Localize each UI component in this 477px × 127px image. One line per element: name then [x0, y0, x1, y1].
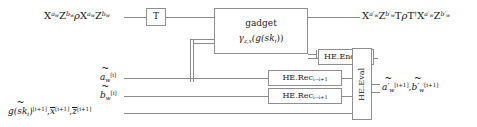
input-g-sk-base: g(sk [8, 106, 27, 116]
bar-accent-x [50, 107, 55, 108]
wire-b-into-he-rec-2 [124, 96, 268, 97]
output-state-label: Xa′wZb′wTρT†Xa′wZb′w [362, 11, 450, 21]
he-rec-2-label: HE.Reci→i+1 [282, 91, 327, 101]
output-b-sup: [i+1] [424, 82, 438, 88]
output-a-sub: w [389, 87, 394, 93]
input-z-sup: [i+1] [77, 106, 91, 112]
input-state-label: XawZbwρXawZbw [44, 11, 110, 21]
output-t1: T [395, 10, 402, 21]
wire-gadget-to-he-enc-drop [316, 50, 317, 58]
bar-accent-z [72, 107, 77, 108]
wire-top-left-segment [124, 17, 146, 18]
g-sk-tilde-group: ~g(ski) [8, 107, 33, 116]
he-rec-2-name: HE.Rec [282, 91, 313, 100]
wire-gadget-left-riser-a [190, 39, 191, 82]
wire-gadget-left-entry-a [190, 39, 214, 40]
input-g-sk-sup: [i+1] [33, 106, 47, 112]
input-b-sub: w [106, 95, 111, 101]
wire-eval-output-a [372, 84, 380, 85]
input-z2-exp-sub: w [106, 13, 110, 18]
wire-gadget-left-riser-b [193, 39, 194, 82]
wire-gadget-to-he-enc [308, 54, 316, 55]
output-z2-exp-sub: w [446, 13, 450, 18]
he-eval-box[interactable]: HE.Eval [352, 48, 372, 120]
input-a-sup: [i] [110, 72, 116, 78]
gadget-formula-tail: )) [276, 33, 283, 43]
input-b-sup: [i] [111, 90, 117, 96]
gadget-g-sk: (g(sk [252, 33, 275, 43]
he-enc-name: HE.Enc [324, 52, 355, 61]
he-rec-1-name: HE.Rec [282, 73, 313, 82]
z-bar-group: z [72, 107, 77, 116]
input-z1: Z [59, 10, 66, 21]
wire-top-t-to-gadget [166, 17, 214, 18]
gadget-box[interactable]: gadget γz,x(g(ski)) [214, 8, 308, 54]
wire-eval-output-b [372, 92, 380, 93]
wire-he-enc-to-eval [374, 58, 378, 59]
input-z2: Z [95, 10, 102, 21]
gadget-formula: γz,x(g(ski)) [239, 33, 284, 44]
wire-he-rec-2-to-eval [342, 96, 352, 97]
circuit-diagram-canvas: T gadget γz,x(g(ski)) XawZbwρXawZbw Xa′w… [0, 0, 477, 127]
gamma-subscript: z,x [244, 37, 252, 43]
input-b-tilde-label: ~bw[i] [100, 91, 117, 100]
output-b-tilde-group: ~b′w [411, 83, 424, 92]
t-gate-box[interactable]: T [146, 8, 166, 26]
he-rec-2-box[interactable]: HE.Reci→i+1 [268, 88, 342, 104]
he-rec-1-sub: i→i+1 [313, 76, 328, 82]
wire-top-gadget-to-output [308, 17, 360, 18]
output-a-tilde-group: ~a′w [382, 83, 394, 92]
wire-a-into-he-rec-1 [124, 78, 268, 79]
input-g-sk-close: ) [29, 106, 33, 116]
x-bar-group: x [50, 107, 55, 116]
he-rec-2-sub: i→i+1 [313, 94, 328, 100]
output-b-sub: w [419, 87, 424, 93]
output-z2: Z [434, 10, 441, 21]
he-rec-1-label: HE.Reci→i+1 [282, 73, 327, 83]
wire-gadget-left-entry-b [193, 43, 214, 44]
he-rec-1-box[interactable]: HE.Reci→i+1 [268, 70, 342, 86]
b-tilde-group: ~bw [100, 91, 111, 100]
input-x2: X [80, 10, 87, 21]
output-ab-tilde-label: ~a′w[i+1],~b′w[i+1] [382, 83, 438, 92]
he-eval-label: HE.Eval [358, 67, 367, 100]
t-gate-label: T [153, 11, 159, 22]
output-a-sup: [i+1] [394, 82, 408, 88]
wire-he-enc-input [308, 58, 318, 59]
wire-he-rec-1-to-eval [342, 78, 352, 79]
wire-bottom-bus [124, 113, 352, 114]
input-x-sup: [i+1] [55, 106, 69, 112]
gadget-label: gadget [245, 18, 277, 29]
input-bottom-bus-label: ~g(ski)[i+1],x[i+1],z[i+1] [8, 107, 91, 116]
